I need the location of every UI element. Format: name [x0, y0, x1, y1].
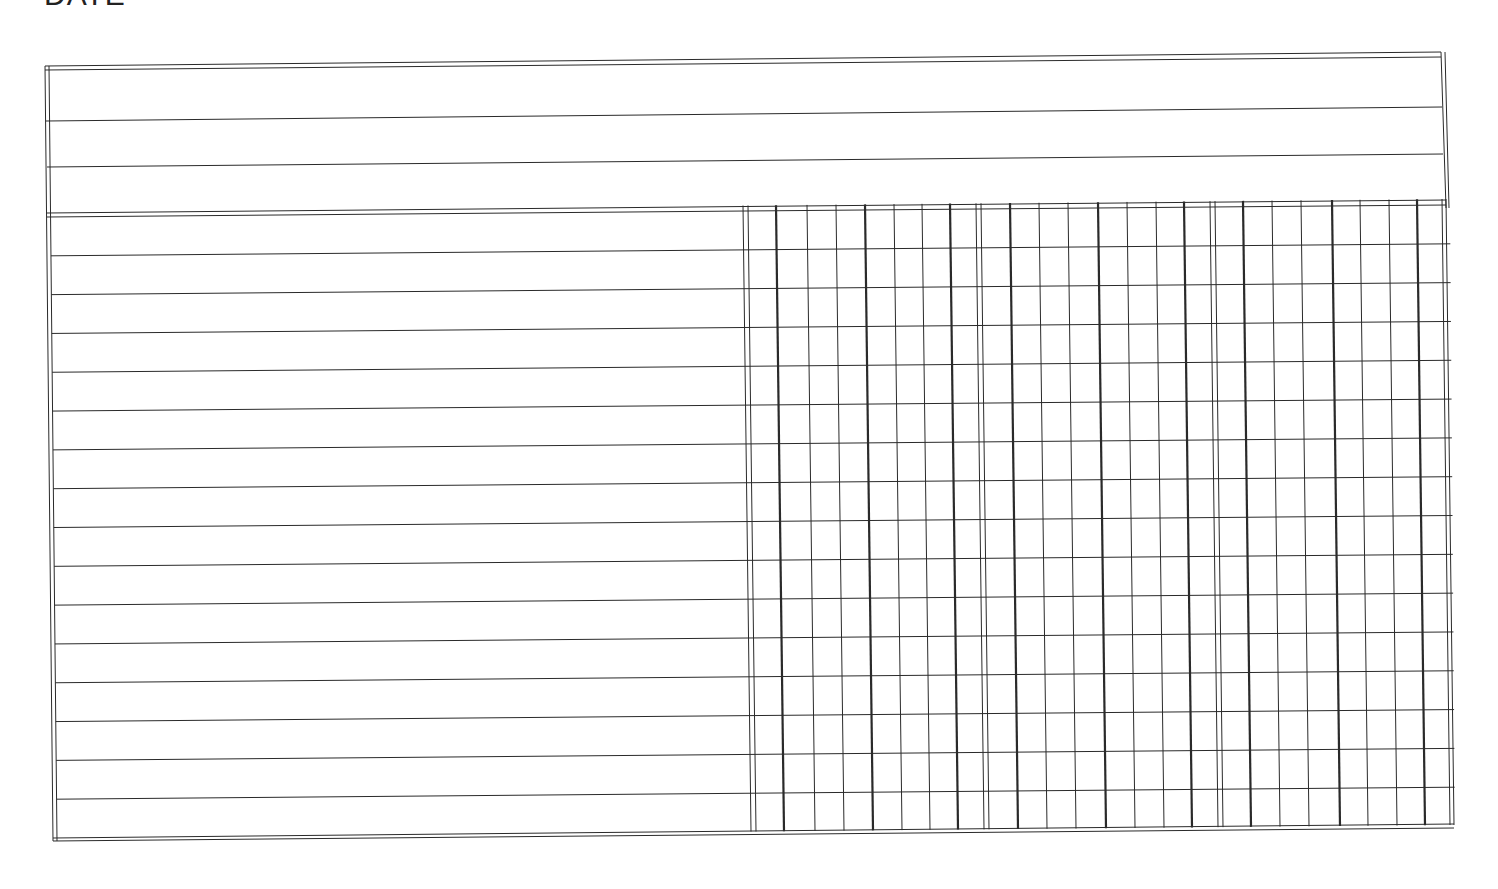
column-rule	[1184, 201, 1192, 827]
column-rule	[1332, 200, 1340, 826]
body-row-line	[54, 516, 1453, 528]
column-rule	[1039, 203, 1047, 829]
body-row-line	[55, 593, 1454, 605]
body-row-line	[52, 360, 1451, 372]
body-row-line	[53, 438, 1452, 450]
column-rule	[865, 204, 873, 830]
header-row-line	[46, 107, 1442, 121]
bottom-rule	[53, 828, 1454, 841]
ledger-grid	[0, 0, 1498, 889]
column-rule	[1210, 201, 1218, 827]
column-rule	[1010, 203, 1018, 829]
column-rule	[1127, 202, 1135, 828]
column-rule	[1156, 202, 1164, 828]
column-rule	[1442, 199, 1450, 825]
ledger-sheet	[0, 0, 1498, 889]
body-row-line	[51, 283, 1450, 295]
column-rule	[1272, 201, 1280, 827]
column-rule	[836, 205, 844, 831]
column-rule	[1068, 203, 1076, 829]
column-rule	[1243, 201, 1251, 827]
outer-left	[45, 66, 53, 841]
column-rule	[981, 203, 989, 829]
column-rule	[748, 205, 756, 831]
body-row-line	[53, 477, 1452, 489]
body-row-line	[51, 244, 1450, 256]
column-rule	[1360, 200, 1368, 826]
column-rule	[1446, 199, 1454, 825]
column-rule	[743, 206, 751, 832]
header-row-line	[47, 154, 1443, 167]
body-row-line	[53, 399, 1452, 411]
column-rule	[894, 204, 902, 830]
column-rule	[1389, 200, 1397, 826]
body-row-line	[54, 554, 1453, 566]
column-rule	[776, 205, 784, 831]
outer-left-inner	[49, 66, 57, 841]
column-rule	[922, 204, 930, 830]
body-row-line	[52, 321, 1451, 333]
bottom-rule	[53, 824, 1454, 838]
column-rule	[950, 204, 958, 830]
column-rule	[1215, 201, 1223, 827]
column-rule	[1301, 200, 1309, 826]
column-rule	[1098, 202, 1106, 828]
column-rule	[976, 203, 984, 829]
body-row-line	[55, 632, 1453, 644]
column-rule	[807, 205, 815, 831]
column-rule	[1417, 199, 1425, 825]
